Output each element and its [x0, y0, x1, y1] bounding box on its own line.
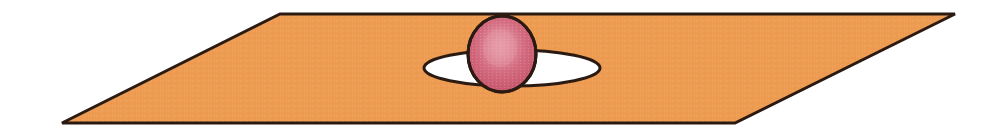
- sphere-group: [468, 16, 536, 92]
- sphere-plane-diagram: [0, 0, 1002, 138]
- sphere-highlight-core: [491, 37, 509, 57]
- figure-root: Sphere intersecting a plane plane circul…: [0, 0, 1002, 138]
